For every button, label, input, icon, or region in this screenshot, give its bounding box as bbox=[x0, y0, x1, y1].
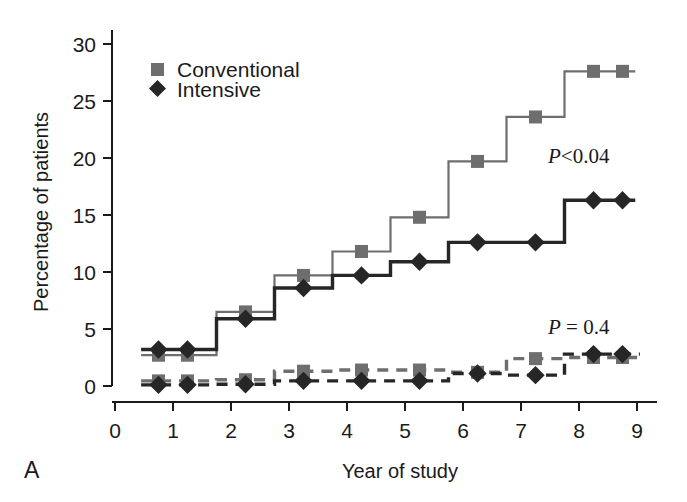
p-rest-upper: <0.04 bbox=[561, 144, 610, 168]
annotation-p-lower: P = 0.4 bbox=[547, 315, 610, 339]
x-tick-label-5: 5 bbox=[399, 419, 411, 442]
data-point-upper-0-7 bbox=[529, 110, 542, 123]
x-axis-title: Year of study bbox=[342, 460, 458, 482]
y-tick-label-5: 5 bbox=[84, 318, 96, 341]
data-point-upper-0-5 bbox=[413, 211, 426, 224]
y-tick-label-10: 10 bbox=[73, 261, 96, 284]
p-italic-lower: P bbox=[547, 315, 561, 339]
y-tick-label-20: 20 bbox=[73, 147, 96, 170]
x-tick-label-0: 0 bbox=[109, 419, 121, 442]
data-point-upper-0-6 bbox=[471, 155, 484, 168]
y-tick-label-25: 25 bbox=[73, 90, 96, 113]
x-tick-label-1: 1 bbox=[167, 419, 179, 442]
x-tick-label-4: 4 bbox=[341, 419, 353, 442]
y-tick-label-0: 0 bbox=[84, 375, 96, 398]
y-axis-title: Percentage of patients bbox=[30, 112, 52, 312]
legend-square-marker-icon bbox=[151, 63, 164, 76]
annotation-p-upper: P<0.04 bbox=[547, 144, 610, 168]
x-tick-label-6: 6 bbox=[457, 419, 469, 442]
legend-label-intensive: Intensive bbox=[177, 78, 261, 101]
p-value-upper-text: P<0.04 bbox=[547, 144, 610, 168]
x-tick-label-3: 3 bbox=[283, 419, 295, 442]
data-point-upper-0-4 bbox=[355, 245, 368, 258]
y-tick-label-15: 15 bbox=[73, 204, 96, 227]
x-tick-label-2: 2 bbox=[225, 419, 237, 442]
p-value-lower-text: P = 0.4 bbox=[547, 315, 610, 339]
figure-panel: 30 25 20 15 10 5 0 0 1 2 3 4 5 6 bbox=[0, 0, 687, 502]
x-tick-label-9: 9 bbox=[631, 419, 643, 442]
y-tick-label-30: 30 bbox=[73, 33, 96, 56]
p-rest-lower: = 0.4 bbox=[561, 315, 610, 339]
data-point-upper-0-8 bbox=[587, 65, 600, 78]
panel-label: A bbox=[24, 457, 40, 483]
data-point-upper-0-9 bbox=[616, 65, 629, 78]
data-point-lower-2-7 bbox=[529, 352, 542, 365]
chart-canvas: 30 25 20 15 10 5 0 0 1 2 3 4 5 6 bbox=[0, 0, 687, 502]
x-tick-label-7: 7 bbox=[515, 419, 527, 442]
x-tick-label-8: 8 bbox=[573, 419, 585, 442]
p-italic-upper: P bbox=[547, 144, 561, 168]
